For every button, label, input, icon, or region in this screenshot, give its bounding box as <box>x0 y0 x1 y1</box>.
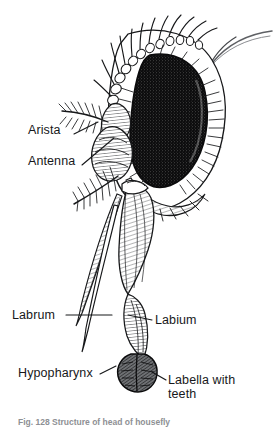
rostrum <box>119 181 154 294</box>
figure-panel: Arista Antenna Labrum Labium Hypopharynx… <box>0 0 277 428</box>
haustellum <box>124 294 147 358</box>
hypopharynx <box>82 205 118 352</box>
labella <box>118 354 157 392</box>
label-hypopharynx: Hypopharynx <box>18 366 93 380</box>
figure-caption: Fig. 128 Structure of head of housefly <box>18 417 268 428</box>
label-antenna: Antenna <box>28 154 75 168</box>
label-labium: Labium <box>155 313 197 327</box>
leader-hypopharynx <box>100 366 116 374</box>
label-arista: Arista <box>28 123 61 137</box>
label-labella-with-teeth: Labella with teeth <box>168 373 260 401</box>
housefly-head-illustration <box>0 0 277 428</box>
label-labrum: Labrum <box>12 308 55 322</box>
antenna <box>92 103 133 181</box>
